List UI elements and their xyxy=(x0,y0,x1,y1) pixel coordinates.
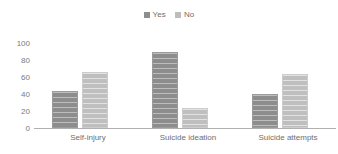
bar-chart: Yes No 100 80 60 40 20 0 Self-injury Su xyxy=(0,0,338,154)
bar-suicide-attempts-yes[interactable] xyxy=(252,94,278,128)
bar-suicide-ideation-no[interactable] xyxy=(182,108,208,128)
bar-self-injury-yes[interactable] xyxy=(52,91,78,128)
x-axis: Self-injury Suicide ideation Suicide att… xyxy=(0,134,338,150)
bar-self-injury-no[interactable] xyxy=(82,72,108,128)
bars-layer xyxy=(0,0,338,154)
x-tick-suicide-attempts: Suicide attempts xyxy=(258,134,317,142)
bar-suicide-ideation-yes[interactable] xyxy=(152,52,178,128)
x-tick-suicide-ideation: Suicide ideation xyxy=(160,134,216,142)
bar-suicide-attempts-no[interactable] xyxy=(282,74,308,128)
x-tick-self-injury: Self-injury xyxy=(70,134,106,142)
plot-area: 100 80 60 40 20 0 Self-injury Suicide id… xyxy=(0,0,338,154)
